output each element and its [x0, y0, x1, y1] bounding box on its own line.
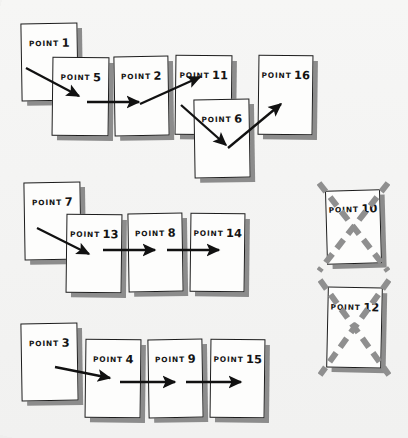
card-point-9[interactable]: POINT9: [147, 339, 203, 419]
card-label: POINT12: [328, 298, 381, 315]
card-point-15[interactable]: POINT15: [210, 339, 266, 419]
card-label: POINT5: [53, 68, 108, 85]
card-label: POINT3: [22, 333, 77, 350]
card-label-number: 15: [246, 352, 262, 366]
card-label-word: POINT: [93, 355, 123, 364]
card-label: POINT15: [211, 350, 264, 367]
card-label-number: 5: [93, 70, 101, 84]
card-label-number: 7: [64, 195, 72, 209]
card-label: POINT4: [86, 350, 140, 367]
card-point-16[interactable]: POINT16: [258, 55, 314, 136]
card-point-14[interactable]: POINT14: [190, 213, 246, 293]
card-label-word: POINT: [261, 71, 291, 80]
card-label-number: 4: [126, 352, 134, 366]
card-label-word: POINT: [179, 71, 209, 80]
card-label-word: POINT: [155, 355, 185, 364]
card-label-word: POINT: [32, 198, 62, 207]
card-label-number: 9: [187, 352, 195, 366]
card-label-word: POINT: [29, 39, 59, 48]
card-point-6[interactable]: POINT6: [193, 99, 250, 179]
card-label: POINT2: [115, 67, 168, 84]
card-label-number: 13: [103, 227, 119, 241]
card-label-word: POINT: [121, 72, 151, 81]
card-point-12[interactable]: POINT12: [326, 286, 383, 368]
card-label-word: POINT: [29, 339, 59, 348]
card-label: POINT13: [67, 225, 121, 242]
card-label: POINT10: [326, 200, 379, 217]
card-label: POINT9: [149, 350, 202, 367]
card-point-2[interactable]: POINT2: [113, 56, 169, 137]
card-point-10[interactable]: POINT10: [325, 189, 382, 265]
card-point-5[interactable]: POINT5: [52, 57, 110, 137]
card-label-number: 14: [226, 226, 242, 240]
card-label-word: POINT: [70, 230, 100, 239]
diagram-canvas: POINT1POINT5POINT2POINT11POINT6POINT16PO…: [0, 0, 408, 438]
card-label: POINT1: [22, 33, 77, 50]
card-label-word: POINT: [201, 115, 231, 124]
card-label-word: POINT: [213, 355, 243, 364]
card-label-number: 6: [234, 112, 242, 126]
card-label: POINT14: [191, 224, 244, 241]
card-label-word: POINT: [193, 229, 223, 238]
card-label: POINT6: [195, 110, 249, 127]
card-label-word: POINT: [331, 303, 361, 313]
card-label-number: 11: [212, 68, 228, 82]
card-label: POINT7: [25, 192, 80, 209]
card-label-number: 2: [153, 69, 161, 83]
card-label-word: POINT: [135, 229, 165, 238]
card-label-number: 12: [363, 300, 379, 314]
card-label: POINT8: [129, 224, 182, 241]
card-label-number: 3: [61, 336, 69, 350]
card-label-number: 10: [361, 202, 377, 216]
card-label: POINT11: [176, 66, 231, 83]
card-label-number: 8: [167, 226, 175, 240]
card-point-3[interactable]: POINT3: [20, 323, 78, 402]
card-point-4[interactable]: POINT4: [85, 339, 142, 419]
card-label-word: POINT: [329, 205, 359, 215]
card-label-number: 1: [61, 36, 69, 50]
card-label-word: POINT: [60, 73, 90, 82]
card-label: POINT16: [259, 66, 312, 83]
card-point-8[interactable]: POINT8: [127, 213, 183, 293]
card-label-number: 16: [294, 68, 310, 82]
card-point-13[interactable]: POINT13: [66, 214, 123, 294]
